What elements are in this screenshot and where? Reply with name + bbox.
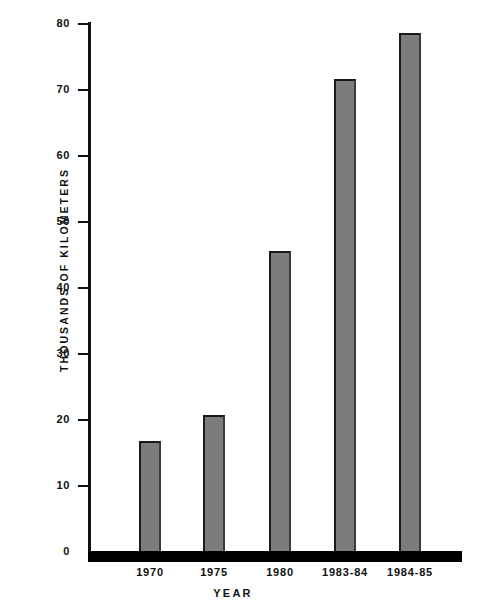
- y-axis-tick-70: [78, 89, 89, 91]
- x-axis-title: YEAR: [88, 587, 378, 599]
- y-axis-tick-80: [78, 23, 89, 25]
- bar-1983-84: [334, 79, 356, 552]
- y-axis-tick-30: [78, 353, 89, 355]
- bar-1975: [203, 415, 225, 552]
- y-axis-tick-40: [78, 287, 89, 289]
- bar-1984-85: [399, 33, 421, 552]
- x-axis-label-1984-85: 1984-85: [365, 566, 455, 578]
- y-axis-tick-label-0: 0: [26, 546, 70, 557]
- bar-1970: [139, 441, 161, 552]
- y-axis-tick-60: [78, 155, 89, 157]
- y-axis-tick-label-80: 80: [26, 18, 70, 29]
- y-axis-tick-label-10: 10: [26, 480, 70, 491]
- y-axis-tick-50: [78, 221, 89, 223]
- x-axis-baseline: [88, 551, 462, 562]
- y-axis-tick-10: [78, 485, 89, 487]
- y-axis-tick-20: [78, 419, 89, 421]
- y-axis-tick-label-70: 70: [26, 84, 70, 95]
- y-axis-title: THOUSANDS OF KILOMETERS: [58, 120, 70, 420]
- bar-chart-figure: 80 70 60 50 40 30 20 10 0 THOUSANDS OF K…: [0, 0, 479, 606]
- bar-1980: [269, 251, 291, 552]
